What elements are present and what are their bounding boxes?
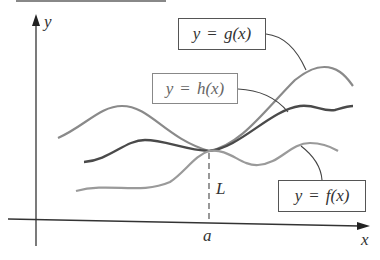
leader-g xyxy=(266,34,306,70)
label-h-lhs: y xyxy=(166,79,174,99)
x-axis-arrow-icon xyxy=(357,222,370,230)
curve-h xyxy=(84,106,353,162)
leader-h xyxy=(238,89,288,112)
label-h-equals: = xyxy=(180,79,190,99)
label-f-equals: = xyxy=(309,186,319,206)
y-axis-label: y xyxy=(44,12,52,32)
leader-f xyxy=(301,146,322,180)
label-g-equals: = xyxy=(207,24,217,44)
limit-L-label: L xyxy=(216,179,225,199)
label-h-rhs: h(x) xyxy=(197,79,224,99)
label-box-h: y = h(x) xyxy=(152,73,238,104)
label-g-lhs: y xyxy=(193,24,201,44)
label-f-lhs: y xyxy=(295,186,303,206)
x-axis-label: x xyxy=(361,230,369,250)
x-axis xyxy=(8,219,360,226)
label-g-rhs: g(x) xyxy=(224,24,251,44)
point-a-label: a xyxy=(203,226,212,246)
squeeze-theorem-diagram: y x a L y = g(x) y = h(x) y = f(x) xyxy=(0,0,380,260)
label-box-g: y = g(x) xyxy=(178,18,266,50)
label-box-f: y = f(x) xyxy=(278,180,366,212)
y-axis-arrow-icon xyxy=(32,14,40,26)
label-f-rhs: f(x) xyxy=(326,186,350,206)
